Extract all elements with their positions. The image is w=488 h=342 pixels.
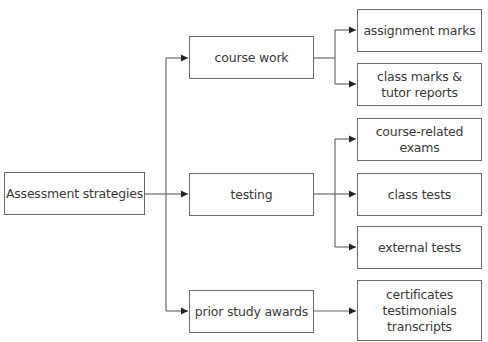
node-class-marks-tutor-reports: class marks & tutor reports bbox=[357, 63, 482, 106]
root-node-assessment-strategies: Assessment strategies bbox=[4, 172, 145, 215]
node-certificates-testimonials-transcripts: certificates testimonials transcripts bbox=[357, 280, 482, 341]
node-assignment-marks: assignment marks bbox=[357, 9, 482, 52]
node-course-work: course work bbox=[189, 36, 314, 79]
node-course-related-exams: course-related exams bbox=[357, 118, 482, 161]
node-testing: testing bbox=[189, 173, 314, 216]
node-class-tests: class tests bbox=[357, 173, 482, 216]
node-prior-study-awards: prior study awards bbox=[189, 290, 314, 333]
node-external-tests: external tests bbox=[357, 226, 482, 269]
